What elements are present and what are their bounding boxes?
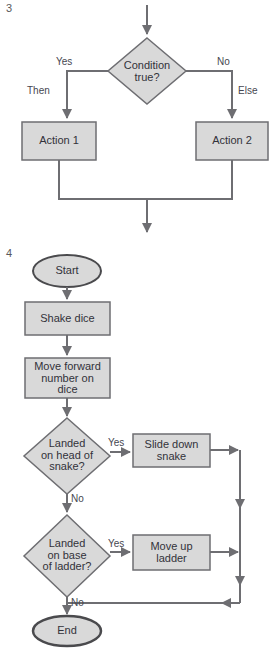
edge-label-ladder-yes: Yes [108, 538, 124, 549]
flowchart-canvas [0, 0, 272, 650]
edge-label-yes: Yes [56, 56, 72, 67]
node-action-2 [196, 122, 268, 160]
node-slide-down-snake [133, 434, 210, 467]
edge-condition-no-else [186, 71, 232, 118]
node-move-up-ladder [133, 535, 210, 570]
edge-actions-merge [59, 160, 232, 199]
edge-label-snake-no: No [71, 493, 84, 504]
edge-label-then: Then [27, 85, 50, 96]
node-condition-decision [108, 38, 186, 104]
edge-label-else: Else [238, 85, 257, 96]
node-move-forward [25, 358, 110, 398]
node-shake-dice [25, 302, 110, 335]
edge-label-no: No [217, 56, 230, 67]
edge-label-ladder-no: No [71, 597, 84, 608]
node-snake-decision [24, 418, 110, 494]
edge-label-snake-yes: Yes [108, 437, 124, 448]
edge-condition-yes-then [67, 71, 108, 118]
node-action-1 [22, 122, 96, 160]
node-end [33, 616, 101, 646]
node-start [33, 255, 101, 287]
node-ladder-decision [24, 515, 110, 597]
